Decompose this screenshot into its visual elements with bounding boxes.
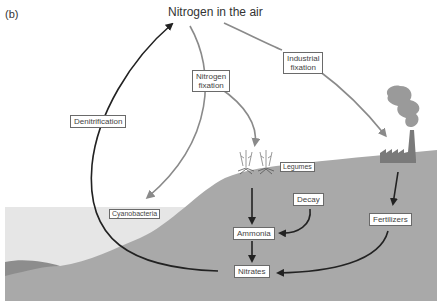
factory-icon xyxy=(380,130,416,163)
nitrogen-cycle-diagram xyxy=(0,0,437,301)
smoke-icon xyxy=(387,86,419,128)
label-denitrification: Denitrification xyxy=(70,115,126,128)
panel-label: (b) xyxy=(5,8,18,20)
arrow-air-to-legumes xyxy=(220,88,255,144)
title-nitrogen-in-air: Nitrogen in the air xyxy=(168,5,263,19)
label-decay: Decay xyxy=(293,193,324,206)
label-industrial-fixation: Industrial fixation xyxy=(283,52,323,74)
label-nitrates: Nitrates xyxy=(234,265,270,278)
arrow-air-to-industrial xyxy=(224,23,282,50)
label-fertilizers: Fertilizers xyxy=(369,213,412,226)
label-legumes: Legumes xyxy=(280,162,315,172)
label-ammonia: Ammonia xyxy=(233,227,275,240)
label-cyanobacteria: Cyanobacteria xyxy=(109,209,160,219)
arrow-industrial-to-factory xyxy=(318,70,385,135)
label-nitrogen-fixation: Nitrogen fixation xyxy=(192,70,230,92)
arrow-air-to-cyanobacteria xyxy=(148,26,205,197)
